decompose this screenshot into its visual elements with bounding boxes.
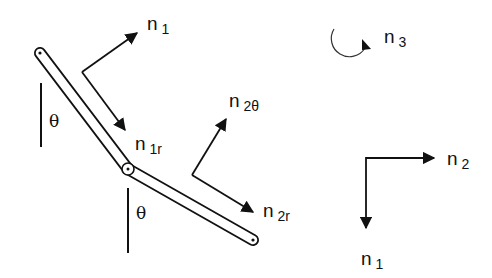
theta-1-label: θ [49,111,59,131]
n1-vector-label: n1 [147,13,170,37]
frame-n2-label: n2 [447,148,470,172]
pivot-pin-icon [38,51,41,54]
rotation-n3-icon [331,29,371,57]
double-pendulum-diagram: θ θ n1 n1r n2θ n2r n3 n2 n1 [0,0,492,278]
n1-arrow-icon [82,33,137,72]
theta-2-label: θ [136,203,146,223]
end-pin-icon [251,238,254,241]
n3-vector-label: n3 [384,26,407,50]
n1r-vector-label: n1r [135,133,162,157]
frame-n1-label: n1 [361,248,384,272]
link-2-unit-vectors [192,119,253,212]
joint [122,163,134,175]
n2theta-arrow-icon [192,119,226,175]
link-2 [128,169,255,242]
inertial-frame [366,157,434,228]
n2theta-vector-label: n2θ [229,90,259,114]
n2r-vector-label: n2r [263,200,290,224]
